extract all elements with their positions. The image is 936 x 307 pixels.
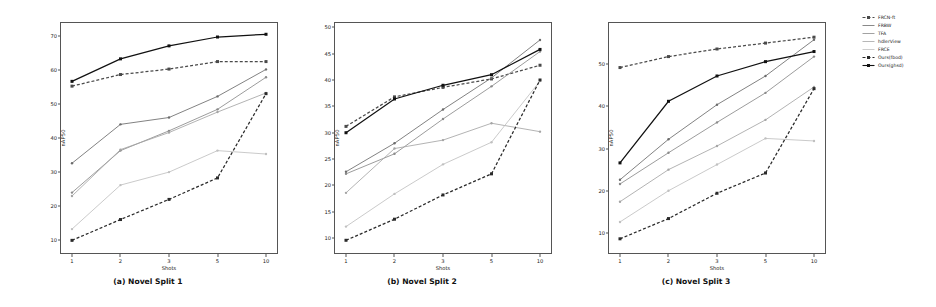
data-point — [813, 50, 816, 53]
y-tick-label: 20 — [50, 203, 57, 209]
legend-swatch — [862, 14, 875, 21]
legend-item-ours-fbod-[interactable]: Ours(fbod) — [862, 54, 934, 61]
series-line — [72, 151, 266, 229]
series-tfa — [71, 76, 267, 194]
legend-swatch — [862, 46, 875, 53]
series-frce — [345, 80, 541, 228]
data-point — [813, 36, 816, 39]
legend-item-frcn-ft[interactable]: FRCN-ft — [862, 14, 934, 21]
series-layer-a — [60, 22, 278, 254]
data-point — [813, 140, 815, 142]
y-tick-label: 35 — [324, 103, 331, 109]
legend-item-frce[interactable]: FRCE — [862, 46, 934, 53]
data-point — [70, 85, 73, 88]
y-tick-label: 50 — [324, 24, 331, 30]
data-point — [490, 122, 492, 124]
data-point — [667, 138, 669, 140]
series-frcn-ft — [618, 36, 815, 69]
series-line — [620, 40, 814, 180]
data-point — [667, 55, 670, 58]
series-line — [620, 138, 814, 222]
legend-item-hdlerview[interactable]: hdlerView — [862, 38, 934, 45]
x-tick-mark — [345, 254, 346, 257]
legend-item-ours-ghsd-[interactable]: Ours(ghsd) — [862, 62, 934, 69]
x-tick-mark — [765, 254, 766, 257]
data-point — [764, 119, 766, 121]
data-point — [119, 148, 121, 150]
data-point — [490, 73, 493, 76]
data-point — [216, 108, 218, 110]
x-tick-label: 1 — [618, 258, 621, 264]
x-tick-mark — [266, 254, 267, 257]
x-tick-mark — [717, 254, 718, 257]
panel-caption-a: (a) Novel Split 1 — [8, 277, 288, 286]
data-point — [667, 152, 669, 154]
y-tick-label: 10 — [598, 230, 605, 236]
data-point — [344, 131, 347, 134]
x-tick-label: 10 — [811, 258, 818, 264]
legend-label: FRCN-ft — [878, 14, 895, 21]
x-tick-label: 10 — [537, 258, 544, 264]
y-tick-label: 30 — [324, 130, 331, 136]
data-point — [265, 92, 268, 95]
x-tick-mark — [169, 254, 170, 257]
data-point — [539, 48, 542, 51]
data-point — [71, 162, 73, 164]
legend-label: FRCE — [878, 46, 890, 53]
y-tick-label: 20 — [598, 188, 605, 194]
data-point — [119, 218, 122, 221]
data-point — [813, 39, 815, 41]
data-point — [393, 97, 396, 100]
series-ours-fbod- — [70, 92, 267, 242]
data-point — [716, 121, 718, 123]
data-point — [70, 80, 73, 83]
data-point — [716, 48, 719, 51]
data-point — [393, 218, 396, 221]
x-tick-label: 5 — [490, 258, 493, 264]
legend-item-tfa[interactable]: TFA — [862, 30, 934, 37]
data-point — [539, 130, 541, 132]
data-point — [168, 171, 170, 173]
data-point — [344, 239, 347, 242]
legend-swatch — [862, 30, 875, 37]
y-tick-label: 60 — [50, 67, 57, 73]
y-tick-label: 50 — [50, 101, 57, 107]
x-tick-label: 5 — [764, 258, 767, 264]
series-layer-c — [608, 22, 826, 254]
data-point — [71, 191, 73, 193]
data-point — [265, 60, 268, 63]
series-line — [346, 49, 540, 132]
y-tick-label: 40 — [324, 77, 331, 83]
data-point — [764, 60, 767, 63]
data-point — [539, 64, 542, 67]
data-point — [813, 55, 815, 57]
data-point — [393, 153, 395, 155]
panel-caption-c: (c) Novel Split 3 — [556, 277, 836, 286]
data-point — [265, 76, 267, 78]
legend-label: hdlerView — [878, 38, 901, 45]
data-point — [216, 95, 218, 97]
y-tick-label: 30 — [598, 146, 605, 152]
x-tick-label: 3 — [441, 258, 444, 264]
data-point — [764, 137, 766, 139]
legend-label: TFA — [878, 30, 886, 37]
data-point — [716, 163, 718, 165]
x-tick-label: 2 — [393, 258, 396, 264]
series-line — [72, 62, 266, 87]
x-tick-label: 3 — [715, 258, 718, 264]
data-point — [490, 172, 493, 175]
data-point — [70, 239, 73, 242]
y-tick-label: 40 — [50, 135, 57, 141]
data-point — [619, 183, 621, 185]
data-point — [119, 123, 121, 125]
data-point — [442, 193, 445, 196]
data-point — [168, 198, 171, 201]
data-point — [442, 118, 444, 120]
series-ours-ghsd- — [618, 50, 815, 164]
legend-item-frbw[interactable]: FRBW — [862, 22, 934, 29]
data-point — [764, 75, 766, 77]
series-line — [72, 77, 266, 192]
data-point — [716, 192, 719, 195]
legend-label: Ours(ghsd) — [878, 62, 904, 69]
series-hdlerview — [345, 122, 541, 194]
